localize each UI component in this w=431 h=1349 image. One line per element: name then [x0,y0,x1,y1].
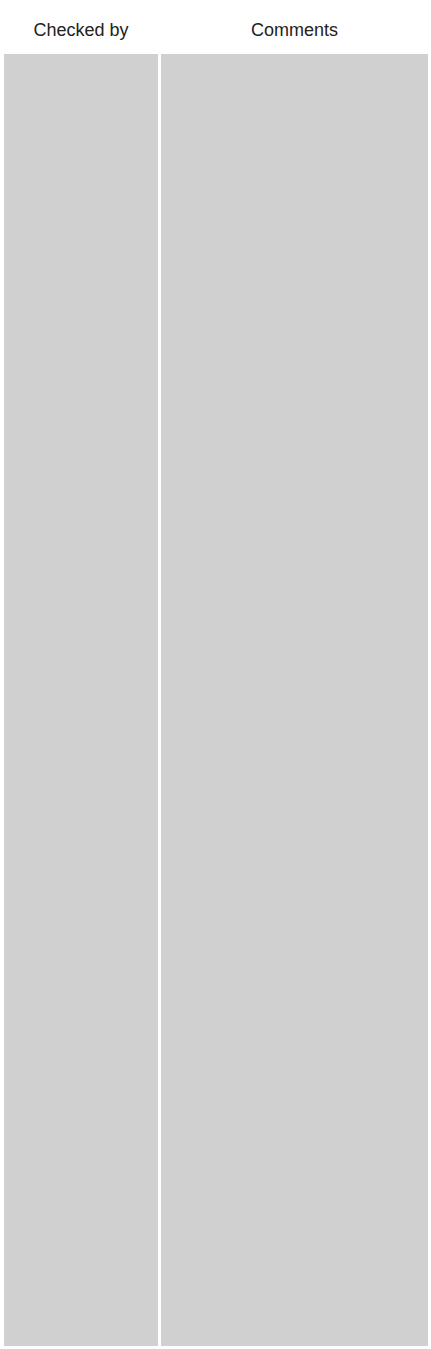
table-header: Checked by Comments [0,0,431,54]
column-header-comments: Comments [161,20,428,41]
column-header-checked-by: Checked by [4,20,158,41]
checked-by-field[interactable] [4,54,158,1346]
comments-field[interactable] [161,54,428,1346]
